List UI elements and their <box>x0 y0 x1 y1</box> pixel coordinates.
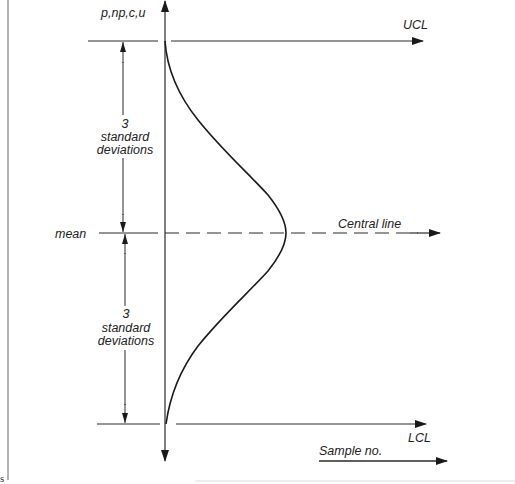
upper-sd-label-line2: standard <box>101 130 151 144</box>
lower-sd-label-line3: deviations <box>98 334 154 348</box>
lower-sd-label-line2: standard <box>102 321 152 335</box>
lcl-label: LCL <box>408 431 431 445</box>
control-chart-diagram: s p,np,c,u UCL mean Central line LCL Sam… <box>0 0 515 484</box>
upper-sd-label-line1: 3 <box>122 117 129 131</box>
ucl-label: UCL <box>403 18 428 32</box>
lower-sd-label-line1: 3 <box>123 307 130 321</box>
upper-sd-label-line3: deviations <box>97 143 153 157</box>
central-line-label: Central line <box>338 217 401 231</box>
margin-fragment: s <box>0 472 4 484</box>
y-axis-label: p,np,c,u <box>100 6 146 20</box>
mean-label: mean <box>55 227 86 241</box>
normal-distribution-curve <box>165 41 286 424</box>
x-axis-label: Sample no. <box>319 444 382 458</box>
